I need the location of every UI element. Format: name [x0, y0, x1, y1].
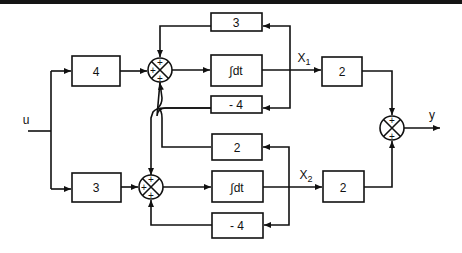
svg-text:+: + — [141, 182, 147, 193]
diagram-canvas: +++ +++ ++ 4 3 3 ∫dt - 4 2 ∫dt - 4 2 2 u… — [0, 0, 462, 253]
label-fb-neg4-top: - 4 — [229, 98, 243, 112]
svg-text:+: + — [148, 174, 154, 185]
svg-text:+: + — [389, 115, 395, 126]
svg-text:+: + — [157, 57, 163, 68]
label-out-gain-1: 2 — [339, 65, 346, 79]
label-integrator-2: ∫dt — [229, 181, 244, 195]
label-fb-2: 2 — [234, 141, 241, 155]
label-fb-neg4-bottom: - 4 — [230, 219, 244, 233]
label-output-y: y — [429, 108, 435, 122]
svg-text:+: + — [389, 131, 395, 142]
label-input-u: u — [23, 113, 30, 127]
label-x2: X2 — [299, 168, 312, 184]
label-fb-3: 3 — [233, 16, 240, 30]
label-out-gain-2: 2 — [340, 181, 347, 195]
block-diagram: +++ +++ ++ 4 3 3 ∫dt - 4 2 ∫dt - 4 2 2 u… — [0, 0, 462, 253]
label-gain-3: 3 — [93, 181, 100, 195]
svg-text:+: + — [157, 73, 163, 84]
label-integrator-1: ∫dt — [228, 64, 243, 78]
label-x1: X1 — [297, 51, 310, 67]
label-gain-4: 4 — [93, 65, 100, 79]
svg-text:+: + — [148, 190, 154, 201]
top-band — [0, 0, 462, 4]
svg-text:+: + — [150, 65, 156, 76]
